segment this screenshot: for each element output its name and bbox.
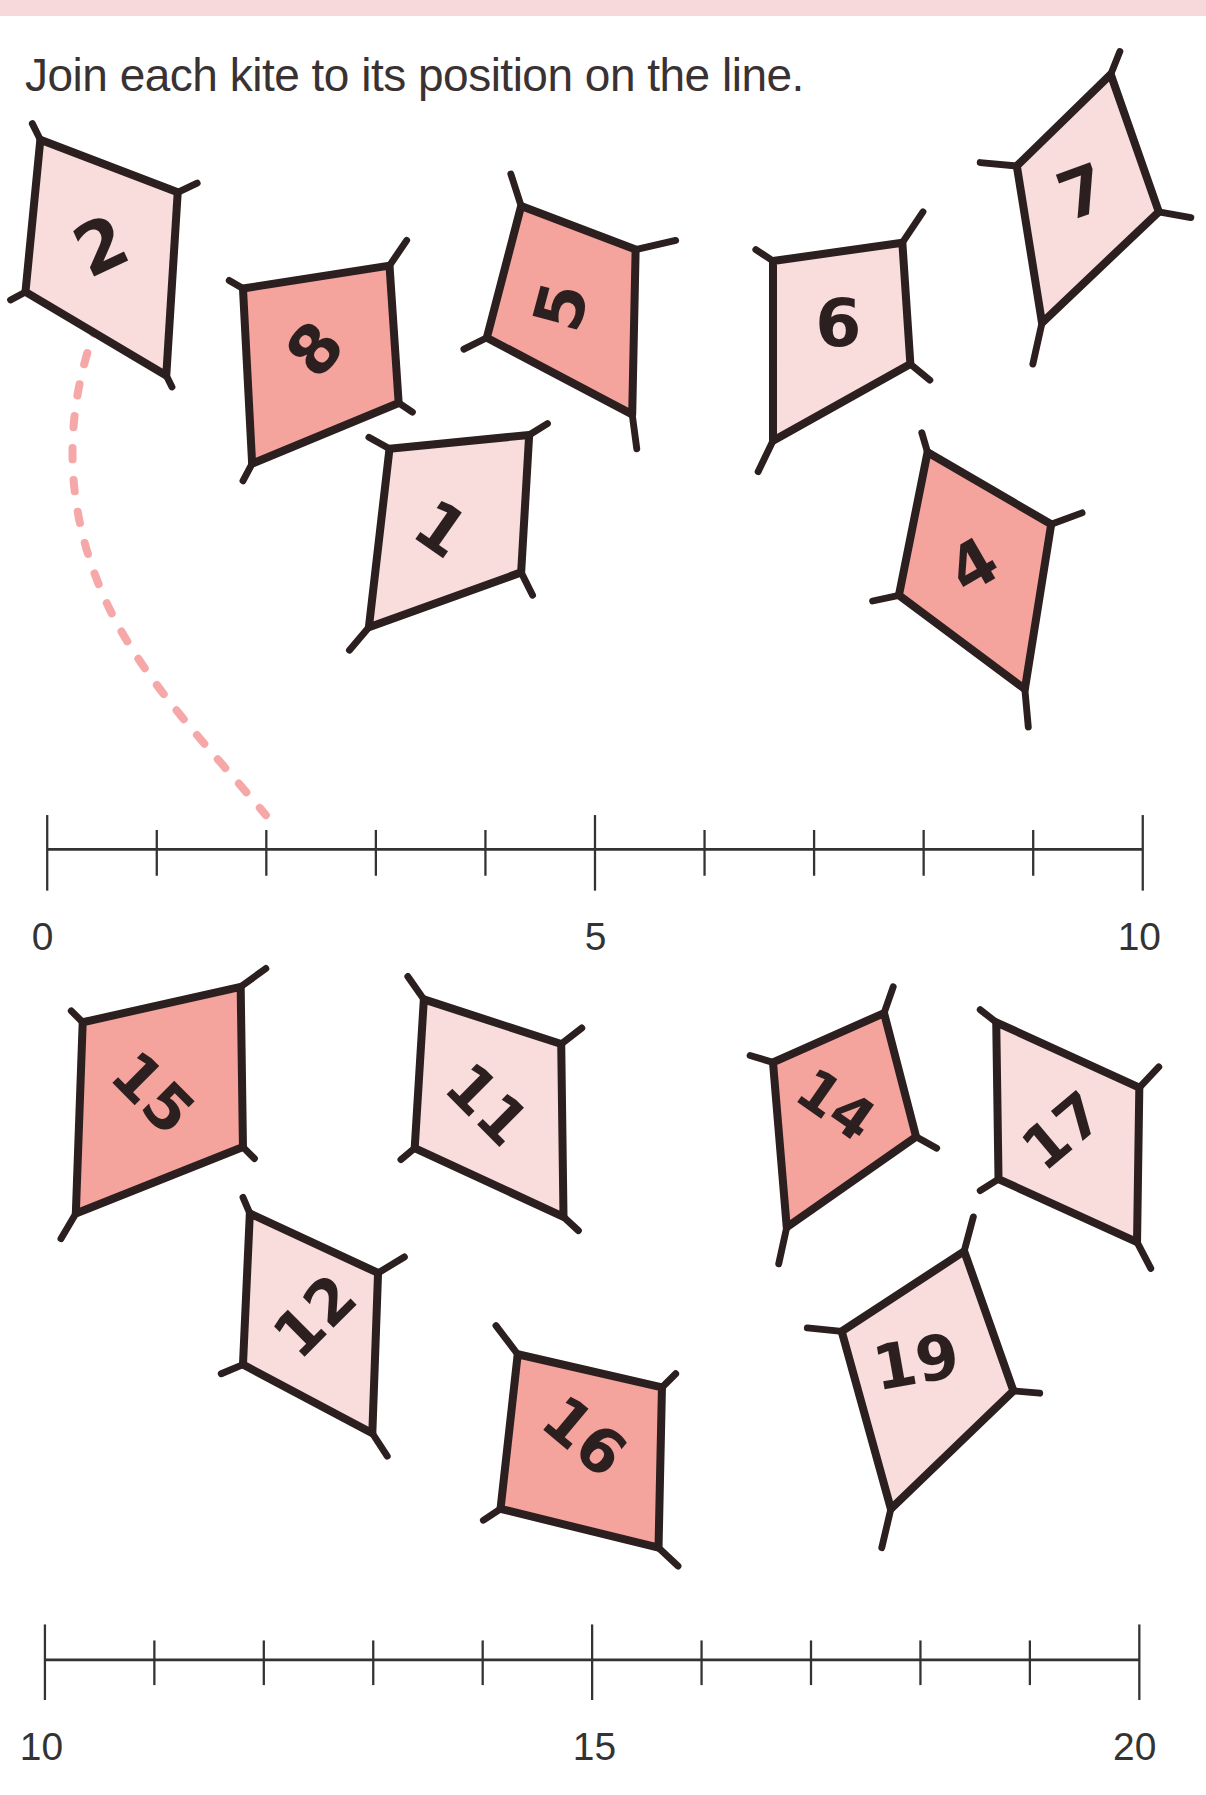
kite-6[interactable]: 6 [756,212,930,472]
worksheet-page: Join each kite to its position on the li… [0,0,1206,1795]
kite-16[interactable]: 16 [483,1326,678,1566]
kite-1[interactable]: 1 [349,424,547,651]
tick-label-15: 15 [573,1725,616,1768]
number-line-10-20: 10 15 20 [20,1624,1157,1767]
example-dashed-connector [73,323,266,815]
kite-17[interactable]: 17 [980,1010,1159,1269]
kite-7[interactable]: 7 [980,52,1191,365]
number-line-0-10: 0 5 10 [32,815,1161,958]
tick-label-0: 0 [32,915,54,958]
kite-number: 19 [867,1319,964,1405]
worksheet-art: 2 8 5 6 7 1 [0,0,1206,1795]
kite-12[interactable]: 12 [221,1197,404,1456]
kite-14[interactable]: 14 [750,987,937,1264]
tick-label-5: 5 [585,915,607,958]
kite-19[interactable]: 19 [807,1217,1039,1548]
kite-15[interactable]: 15 [61,968,266,1238]
kite-11[interactable]: 11 [401,976,582,1230]
kite-4[interactable]: 4 [873,433,1082,727]
tick-label-20: 20 [1113,1725,1156,1768]
tick-label-10: 10 [1118,915,1161,958]
kite-2[interactable]: 2 [11,124,198,387]
kite-number: 6 [815,284,861,362]
tick-label-10: 10 [20,1725,63,1768]
kite-5[interactable]: 5 [464,174,676,449]
